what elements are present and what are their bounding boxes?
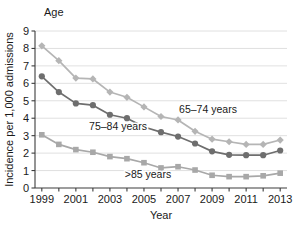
data-point-2-2011 xyxy=(243,152,249,158)
y-tick-label-1: 1 xyxy=(23,165,29,177)
y-tick-label-5: 5 xyxy=(23,95,29,107)
y-tick-label-6: 6 xyxy=(23,77,29,89)
x-tick-label-2001: 2001 xyxy=(64,193,88,205)
data-point-2-2000 xyxy=(56,89,62,95)
data-point-1-2004 xyxy=(123,94,130,101)
y-tick-label-7: 7 xyxy=(23,60,29,72)
data-point-3-2004 xyxy=(124,156,130,162)
data-point-1-2013 xyxy=(277,136,284,143)
data-point-3-2007 xyxy=(175,164,181,170)
data-point-3-2011 xyxy=(243,174,249,180)
y-axis-title: Incidence per 1,000 admissions xyxy=(3,32,15,187)
data-point-3-2002 xyxy=(90,149,96,155)
series-label-1: 65–74 years xyxy=(179,103,237,115)
data-point-1-2009 xyxy=(208,136,215,143)
data-point-2-2001 xyxy=(73,100,79,106)
x-tick-label-2005: 2005 xyxy=(132,193,156,205)
data-point-2-2008 xyxy=(192,140,198,146)
data-point-3-2009 xyxy=(209,172,215,178)
data-point-2-2010 xyxy=(226,152,232,158)
series-label-2: 75–84 years xyxy=(89,120,147,132)
x-tick-label-2007: 2007 xyxy=(166,193,190,205)
data-point-1-2010 xyxy=(226,138,233,145)
y-tick-label-0: 0 xyxy=(23,182,29,194)
x-tick-label-2013: 2013 xyxy=(268,193,292,205)
data-point-3-2010 xyxy=(226,174,232,180)
data-point-3-2012 xyxy=(260,173,266,179)
data-point-3-1999 xyxy=(39,132,45,138)
data-point-3-2005 xyxy=(141,160,147,166)
y-tick-label-4: 4 xyxy=(23,112,29,124)
data-point-1-2012 xyxy=(260,141,267,148)
data-point-2-2003 xyxy=(107,112,113,118)
y-tick-label-9: 9 xyxy=(23,25,29,37)
data-point-2-2012 xyxy=(260,152,266,158)
data-point-3-2008 xyxy=(192,167,198,173)
y-tick-label-2: 2 xyxy=(23,147,29,159)
data-point-2-2013 xyxy=(277,147,283,153)
data-point-1-2006 xyxy=(157,113,164,120)
series-label-3: >85 years xyxy=(125,168,171,180)
data-point-3-2000 xyxy=(56,142,62,148)
data-point-1-2011 xyxy=(243,141,250,148)
data-point-2-2006 xyxy=(158,129,164,135)
data-point-1-2005 xyxy=(140,103,147,110)
x-tick-label-2011: 2011 xyxy=(234,193,258,205)
data-point-3-2013 xyxy=(277,170,283,176)
data-point-3-2003 xyxy=(107,154,113,160)
x-tick-label-1999: 1999 xyxy=(30,193,54,205)
data-point-2-2007 xyxy=(175,133,181,139)
x-axis-title: Year xyxy=(150,209,173,221)
incidence-by-age-line-chart: 0123456789199920012003200520072009201120… xyxy=(0,0,298,227)
y-tick-label-3: 3 xyxy=(23,130,29,142)
data-point-2-2009 xyxy=(209,148,215,154)
chart-title: Age xyxy=(44,6,64,18)
data-point-2-1999 xyxy=(39,73,45,79)
chart-figure: 0123456789199920012003200520072009201120… xyxy=(0,0,298,227)
data-point-3-2001 xyxy=(73,147,79,153)
x-tick-label-2003: 2003 xyxy=(98,193,122,205)
x-tick-label-2009: 2009 xyxy=(200,193,224,205)
y-tick-label-8: 8 xyxy=(23,42,29,54)
data-point-2-2002 xyxy=(90,102,96,108)
